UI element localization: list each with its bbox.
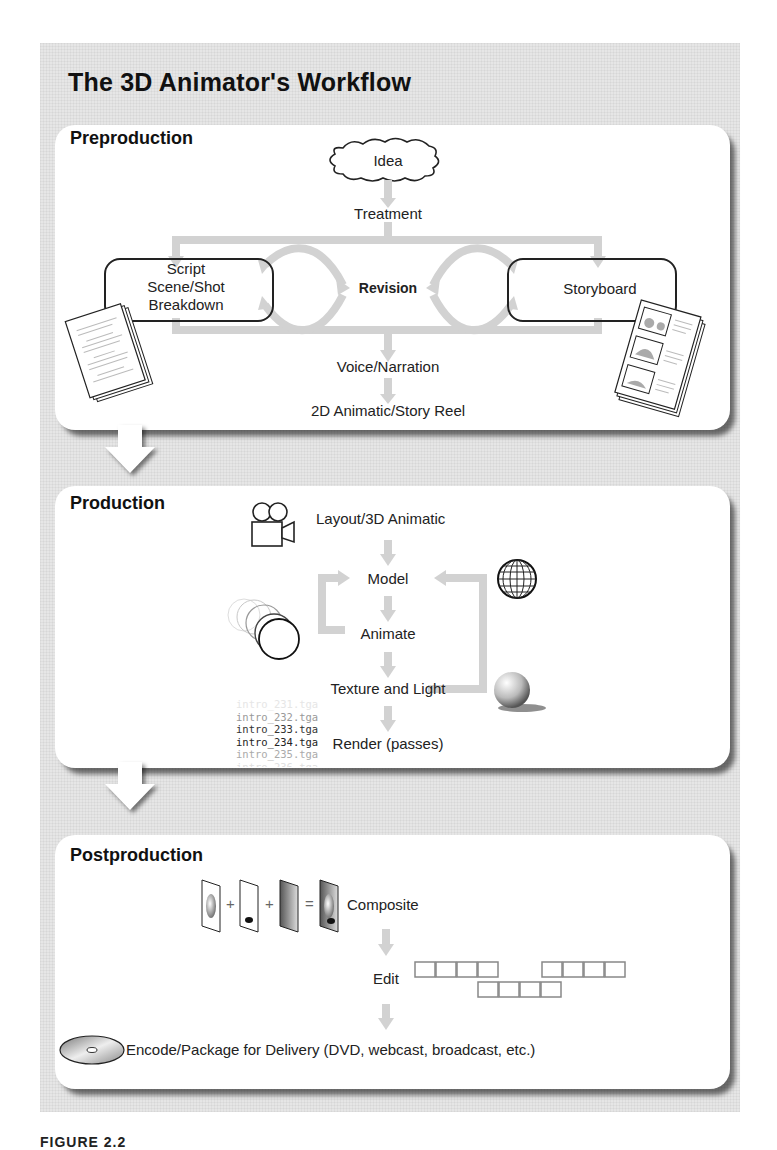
edit-label: Edit [373, 970, 399, 987]
postproduction-flow-arrows [0, 0, 777, 1100]
disc-icon [58, 1034, 126, 1066]
encode-label: Encode/Package for Delivery (DVD, webcas… [126, 1041, 535, 1058]
film-strip-icon [414, 961, 634, 1006]
figure-caption: FIGURE 2.2 [40, 1134, 126, 1150]
